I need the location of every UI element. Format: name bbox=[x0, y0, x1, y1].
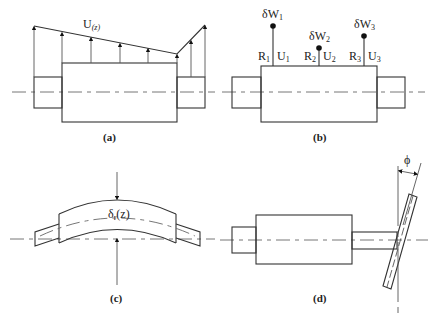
panel-c: δr(z) (c) bbox=[10, 172, 215, 305]
left-shaft bbox=[34, 77, 62, 108]
svg-text:δW2: δW2 bbox=[309, 29, 330, 44]
caption-d: (d) bbox=[313, 292, 327, 305]
rotor-body bbox=[62, 63, 177, 122]
panel-a: U(z) (a) bbox=[12, 17, 215, 144]
svg-text:δW1: δW1 bbox=[262, 7, 283, 22]
svg-text:R3: R3 bbox=[349, 49, 361, 64]
rotor-body bbox=[261, 66, 377, 122]
displacement-label: U(z) bbox=[83, 17, 100, 32]
tilt-angle-label: ϕ bbox=[404, 153, 410, 167]
right-shaft bbox=[176, 224, 200, 246]
deflection-label: δr(z) bbox=[108, 207, 130, 222]
left-shaft bbox=[35, 224, 59, 246]
svg-text:R2: R2 bbox=[304, 49, 316, 64]
right-shaft bbox=[352, 232, 397, 249]
svg-text:R1: R1 bbox=[258, 49, 270, 64]
caption-a: (a) bbox=[103, 131, 116, 144]
weight-2: δW2 R2 U2 bbox=[304, 29, 336, 66]
bent-body-bottom bbox=[59, 230, 176, 244]
svg-text:U1: U1 bbox=[277, 49, 290, 64]
right-shaft bbox=[377, 77, 405, 108]
caption-b: (b) bbox=[313, 131, 327, 144]
panel-d: ϕ (d) bbox=[220, 153, 428, 318]
caption-c: (c) bbox=[110, 292, 123, 305]
displacement-envelope bbox=[34, 25, 205, 54]
disk-axis bbox=[387, 196, 413, 287]
rotor-body bbox=[256, 215, 352, 264]
angle-arrow bbox=[400, 171, 416, 174]
svg-text:U2: U2 bbox=[323, 49, 336, 64]
svg-text:δW3: δW3 bbox=[354, 17, 375, 32]
right-shaft bbox=[177, 77, 205, 108]
panel-b: δW1 R1 U1 δW2 R2 U2 δW3 R3 U3 (b) bbox=[222, 7, 425, 144]
weight-1: δW1 R1 U1 bbox=[258, 7, 290, 66]
weight-3: δW3 R3 U3 bbox=[349, 17, 381, 66]
rotor-deflection-figure: U(z) (a) δW1 R1 U1 δW2 R2 U2 δW3 R3 bbox=[0, 0, 433, 324]
left-shaft bbox=[232, 77, 261, 108]
svg-text:U3: U3 bbox=[368, 49, 381, 64]
